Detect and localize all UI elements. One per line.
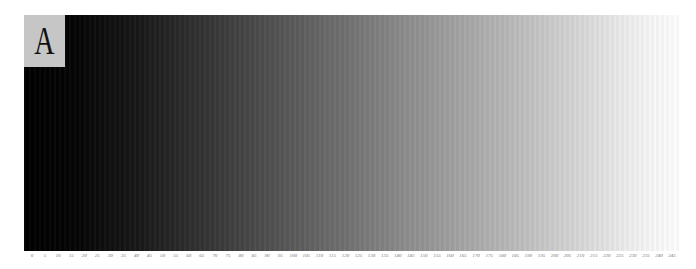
scale-tick-label: 190 [525, 253, 533, 258]
scale-tick-label: 210 [577, 253, 585, 258]
scale-ticks: 0510152025303540455055606570758085909510… [24, 253, 680, 265]
scale-tick-label: 135 [381, 253, 389, 258]
scale-tick-label: 160 [446, 253, 454, 258]
scale-tick-label: 50 [160, 253, 165, 258]
scale-tick-label: 155 [433, 253, 441, 258]
grayscale-gradient-strip [24, 15, 680, 251]
panel-label-box: A [24, 15, 65, 67]
scale-tick-label: 105 [303, 253, 311, 258]
scale-tick-label: 65 [199, 253, 204, 258]
scale-tick-label: 85 [252, 253, 257, 258]
scale-tick-label: 70 [212, 253, 217, 258]
scale-tick-label: 185 [512, 253, 520, 258]
scale-tick-label: 125 [355, 253, 363, 258]
scale-tick-label: 235 [642, 253, 650, 258]
scale-tick-label: 5 [44, 253, 47, 258]
scale-tick-label: 145 [407, 253, 415, 258]
scale-tick-label: 75 [225, 253, 230, 258]
scale-tick-label: 115 [329, 253, 336, 258]
scale-tick-label: 175 [485, 253, 493, 258]
scale-tick-label: 170 [472, 253, 480, 258]
scale-tick-label: 20 [82, 253, 87, 258]
scale-tick-label: 165 [459, 253, 467, 258]
scale-tick-label: 195 [538, 253, 546, 258]
scale-tick-label: 150 [420, 253, 428, 258]
scale-tick-label: 130 [368, 253, 376, 258]
scale-tick-label: 110 [316, 253, 323, 258]
scale-tick-label: 230 [629, 253, 637, 258]
scale-tick-label: 200 [551, 253, 559, 258]
panel-label: A [34, 21, 54, 61]
scale-tick-label: 25 [95, 253, 100, 258]
scale-tick-label: 140 [394, 253, 402, 258]
scale-tick-label: 30 [108, 253, 113, 258]
scale-tick-label: 240 [655, 253, 663, 258]
scale-tick-label: 60 [186, 253, 191, 258]
scale-tick-label: 40 [134, 253, 139, 258]
scale-tick-label: 95 [278, 253, 283, 258]
scale-tick-label: 120 [342, 253, 350, 258]
scale-tick-label: 10 [56, 253, 61, 258]
scale-tick-label: 225 [616, 253, 624, 258]
scale-tick-label: 245 [668, 253, 676, 258]
scale-tick-label: 90 [265, 253, 270, 258]
scale-tick-label: 180 [498, 253, 506, 258]
scale-tick-label: 45 [147, 253, 152, 258]
scale-tick-label: 55 [173, 253, 178, 258]
scale-tick-label: 220 [603, 253, 611, 258]
scale-tick-label: 100 [289, 253, 297, 258]
scale-tick-label: 15 [69, 253, 74, 258]
scale-tick-label: 35 [121, 253, 126, 258]
scale-tick-label: 205 [564, 253, 572, 258]
scale-tick-label: 0 [31, 253, 34, 258]
scale-tick-label: 80 [238, 253, 243, 258]
scale-tick-label: 215 [590, 253, 598, 258]
